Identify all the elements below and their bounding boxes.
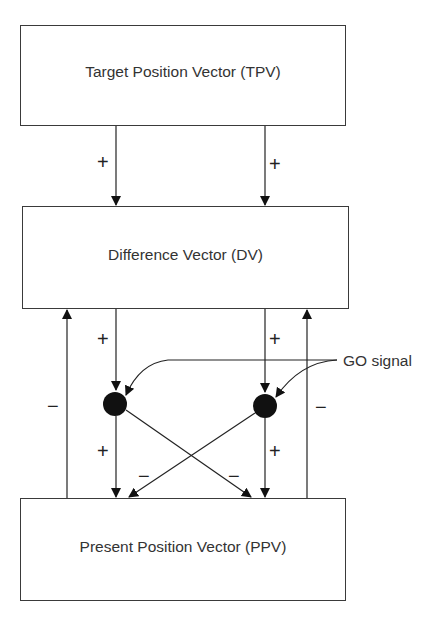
sign-feedback-right: − (315, 397, 327, 417)
ppv-box: Present Position Vector (PPV) (20, 498, 346, 601)
ppv-label: Present Position Vector (PPV) (21, 538, 345, 556)
dv-box: Difference Vector (DV) (22, 206, 349, 309)
sign-tpv-dv-left: + (97, 152, 109, 172)
sign-tpv-dv-right: + (269, 154, 281, 174)
sign-cross-right: − (228, 466, 240, 486)
sign-dv-node-left: + (97, 329, 109, 349)
go-signal-label: GO signal (343, 352, 412, 370)
tpv-label: Target Position Vector (TPV) (21, 63, 345, 81)
sign-dv-node-right: + (269, 329, 281, 349)
go-node-right (253, 394, 277, 418)
sign-feedback-left: − (47, 396, 59, 416)
tpv-box: Target Position Vector (TPV) (20, 25, 346, 126)
sign-node-ppv-right: + (269, 441, 281, 461)
sign-cross-left: − (138, 466, 150, 486)
go-node-left (103, 392, 127, 416)
sign-node-ppv-left: + (97, 441, 109, 461)
go-signal-curve-left (126, 360, 337, 395)
dv-label: Difference Vector (DV) (23, 246, 348, 264)
